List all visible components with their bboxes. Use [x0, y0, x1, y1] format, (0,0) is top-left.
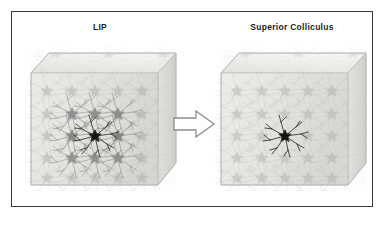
- panel-title-lip: LIP: [30, 22, 170, 32]
- right-arrow-icon: [174, 111, 214, 137]
- tissue-block-lip: [25, 46, 177, 191]
- panel-title-superior-colliculus: Superior Colliculus: [218, 22, 366, 32]
- figure-root: LIP Superior Colliculus: [0, 0, 386, 227]
- tissue-block-superior-colliculus: [215, 46, 367, 191]
- transition-arrow: [172, 108, 216, 140]
